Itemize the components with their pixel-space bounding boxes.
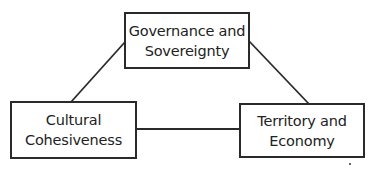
node-territory-economy: Territory and Economy [239,103,365,158]
node-governance-sovereignty: Governance and Sovereignty [124,12,250,69]
node-label-line: Cohesiveness [25,130,122,150]
node-label-line: Governance and [129,21,246,41]
node-label-line: Territory and [257,111,346,131]
node-label-line: Sovereignty [145,41,230,61]
node-label-line: Economy [269,131,334,151]
node-label-line: Cultural [46,110,102,130]
edge-governance-territory [249,41,309,104]
edge-governance-culture [71,42,125,102]
scan-speck [349,163,351,165]
node-cultural-cohesiveness: Cultural Cohesiveness [10,101,137,159]
